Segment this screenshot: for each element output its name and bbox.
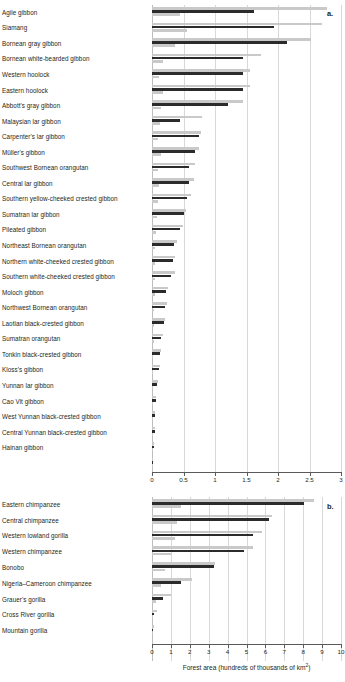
bar-group [152,363,341,379]
table-row: Cross River gorilla [0,608,345,624]
bar-lower-light [152,433,153,436]
bar-lower-light [152,402,153,405]
bar-lower-light [152,569,165,572]
bar-middle-dark [152,57,243,60]
table-row: Bornean gray gibbon [0,36,345,52]
bar-group [152,592,341,608]
bar-group [152,347,341,363]
panel-label-a: a. [327,10,333,17]
species-label: Southern yellow-cheeked crested gibbon [2,196,118,202]
bar-group [152,544,341,560]
panel-b: Eastern chimpanzeeCentral chimpanzeeWest… [0,492,345,682]
bar-lower-light [152,371,153,374]
bar-middle-dark [152,290,166,293]
bar-lower-light [152,309,154,312]
species-label: Siamang [2,25,27,31]
bar-lower-light [152,216,157,219]
bar-group [152,223,341,239]
bar-lower-light [152,584,161,587]
bar-middle-dark [152,88,243,91]
bar-lower-light [152,505,181,508]
table-row: Carpenter's lar gibbon [0,129,345,145]
bar-group [152,67,341,83]
bar-middle-dark [152,321,164,324]
bar-middle-dark [152,518,269,521]
bar-group [152,5,341,21]
species-label: Central chimpanzee [2,518,59,524]
table-row: Bonobo [0,560,345,576]
species-label: Eastern chimpanzee [2,502,60,508]
bar-lower-light [152,247,155,250]
table-row: Agile gibbon [0,5,345,21]
bar-lower-light [152,340,154,343]
bar-middle-dark [152,430,155,433]
bar-lower-light [152,355,153,358]
species-label: Bornean gray gibbon [2,41,61,47]
species-label: Cross River gorilla [2,612,54,618]
bar-middle-dark [152,565,214,568]
bar-middle-dark [152,306,165,309]
bar-group [152,207,341,223]
bar-group [152,238,341,254]
axis-tick-label: 8 [301,649,304,655]
bar-middle-dark [152,534,253,537]
table-row: Müller's gibbon [0,145,345,161]
x-axis-panel-b: 012345678910 [152,644,341,660]
bar-middle-dark [152,197,187,200]
bar-group [152,83,341,99]
bar-group [152,378,341,394]
bar-group [152,529,341,545]
bar-group [152,254,341,270]
species-label: West Yunnan black-crested gibbon [2,414,101,420]
species-label: Western hoolock [2,72,50,78]
bar-middle-dark [152,166,189,169]
x-axis-panel-a: 00.511.522.53 [152,472,341,488]
bar-lower-light [152,29,187,32]
axis-tick-label: 9 [320,649,323,655]
bar-group [152,36,341,52]
axis-tick-label: 2 [276,477,279,483]
bar-group [152,425,341,441]
bar-group [152,513,341,529]
species-label: Pileated gibbon [2,227,46,233]
table-row: Abbott's gray gibbon [0,98,345,114]
bar-group [152,440,341,456]
species-label: Abbott's gray gibbon [2,103,60,109]
bar-lower-light [152,138,158,141]
species-label: Northwest Bornean orangutan [2,305,87,311]
bar-group [152,456,341,472]
bar-lower-light [152,521,177,524]
axis-tick-label: 7 [283,649,286,655]
bar-lower-light [152,418,153,421]
table-row: Moloch gibbon [0,285,345,301]
table-row: Malaysian lar gibbon [0,114,345,130]
species-label: Central Yunnan black-crested gibbon [2,429,107,435]
bar-group [152,409,341,425]
bar-middle-dark [152,119,180,122]
species-label: Malaysian lar gibbon [2,118,61,124]
bar-middle-dark [152,550,244,553]
axis-tick-label: 1 [213,477,216,483]
axis-tick-label: 2.5 [305,477,314,483]
bar-lower-light [152,60,163,63]
axis-tick-label: 3 [207,649,210,655]
bar-lower-light [152,76,159,79]
species-label: Southwest Bornean orangutan [2,165,88,171]
bar-group [152,332,341,348]
bar-middle-dark [152,337,161,340]
table-row: Mountain gorilla [0,623,345,639]
table-row: Grauer's gorilla [0,592,345,608]
bar-middle-dark [152,243,174,246]
species-label: Northern white-cheeked crested gibbon [2,258,114,264]
species-label: Müller's gibbon [2,150,45,156]
bar-lower-light [152,278,155,281]
bar-middle-dark [152,383,157,386]
bar-middle-dark [152,26,274,29]
bar-lower-light [152,122,160,125]
species-label: Western chimpanzee [2,549,62,555]
table-row: Northwest Bornean orangutan [0,300,345,316]
panel-label-b: b. [327,503,334,510]
table-row: Bornean white-bearded gibbon [0,52,345,68]
table-row: Central chimpanzee [0,513,345,529]
species-label: Sumatran orangutan [2,336,60,342]
